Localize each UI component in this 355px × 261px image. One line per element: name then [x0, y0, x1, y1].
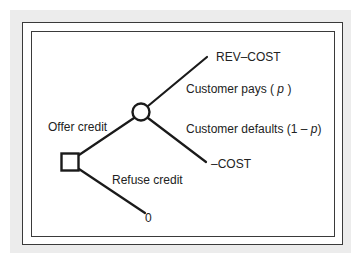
customer-pays-label: Customer pays ( p ) [186, 82, 291, 96]
customer-defaults-text: Customer defaults (1 – [186, 122, 311, 136]
pays-payoff-label: REV–COST [216, 50, 281, 64]
customer-defaults-close: ) [317, 122, 321, 136]
decision-node-square [62, 154, 79, 171]
customer-pays-close: ) [284, 82, 291, 96]
customer-defaults-label: Customer defaults (1 – p) [186, 122, 321, 136]
refuse-payoff-label: 0 [145, 211, 152, 225]
offer-credit-label: Offer credit [48, 120, 107, 134]
customer-pays-text: Customer pays ( [186, 82, 277, 96]
defaults-payoff-label: –COST [211, 157, 251, 171]
chance-node-circle [133, 104, 150, 121]
refuse-credit-label: Refuse credit [112, 173, 183, 187]
